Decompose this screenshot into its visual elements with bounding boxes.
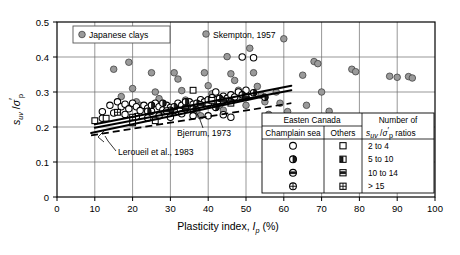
marker-open-circle [239, 54, 245, 60]
annotation-skempton: Skempton, 1957 [213, 30, 276, 40]
marker-japanese-clay [246, 45, 253, 52]
marker-japanese-clay [175, 76, 182, 83]
skempton-swatch [203, 31, 210, 38]
marker-japanese-clay [224, 53, 231, 60]
annotation-leroueil: Leroueil et al., 1983 [118, 147, 194, 157]
legend-box [262, 113, 434, 193]
marker-japanese-clay [205, 82, 212, 89]
y-tick-label: 0.2 [36, 122, 49, 133]
marker-japanese-clay [243, 102, 250, 109]
legend-header-easten-canada: Easten Canada [283, 115, 341, 125]
x-tick-label: 70 [316, 203, 327, 214]
marker-japanese-clay [231, 77, 238, 84]
x-tick-label: 30 [165, 203, 176, 214]
x-tick-label: 40 [203, 203, 214, 214]
marker-japanese-clay [315, 60, 322, 67]
x-tick-label: 60 [279, 203, 290, 214]
marker-japanese-clay [201, 69, 208, 76]
marker-japanese-clay [152, 89, 159, 96]
marker-japanese-clay [171, 69, 178, 76]
y-tick-label: 0.1 [36, 157, 49, 168]
legend-ratio-value: > 15 [368, 181, 385, 191]
marker-open-circle [99, 108, 105, 114]
legend-ratio-value: 10 to 14 [368, 168, 398, 178]
marker-japanese-clay [178, 87, 185, 94]
marker-half-square-fill [341, 157, 343, 162]
marker-half-circle-fill [293, 156, 296, 163]
legend-layer: Easten CanadaChamplain seaOthersNumber o… [262, 113, 434, 193]
marker-japanese-clay [394, 74, 401, 81]
x-tick-label: 90 [392, 203, 403, 214]
y-tick-label: 0.3 [36, 87, 49, 98]
annotation-bjerrum: Bjerrum, 1973 [177, 128, 231, 138]
annotation-japanese-clays: Japanese clays [89, 30, 148, 40]
y-tick-label: 0 [44, 192, 49, 203]
marker-open-circle [107, 102, 113, 108]
x-tick-label: 10 [90, 203, 101, 214]
x-tick-label: 100 [427, 203, 443, 214]
chart-root: 010203040506070809010000.10.20.30.40.5Pl… [0, 0, 460, 255]
leroueil-leader [105, 136, 116, 151]
marker-japanese-clay [148, 69, 155, 76]
marker-open-square [92, 118, 98, 124]
legend-ratio-value: 5 to 10 [368, 154, 394, 164]
marker-open-circle [213, 89, 219, 95]
marker-japanese-clay [409, 75, 416, 82]
marker-japanese-clay [352, 68, 359, 75]
marker-open-circle [122, 111, 128, 117]
marker-half-circle-fill [152, 102, 155, 108]
marker-half-circle-fill [186, 99, 189, 105]
x-tick-label: 0 [54, 203, 59, 214]
marker-japanese-clay [318, 89, 325, 96]
x-tick-label: 80 [354, 203, 365, 214]
marker-band-circle-band [290, 172, 297, 174]
x-axis-title: Plasticity index, Ip (%) [177, 220, 278, 235]
y-tick-label: 0.5 [36, 17, 49, 28]
japanese-clays-swatch [79, 31, 86, 38]
marker-japanese-clay [250, 69, 257, 76]
marker-open-circle [228, 114, 234, 120]
marker-japanese-clay [126, 59, 133, 66]
legend-col-others: Others [331, 128, 356, 138]
marker-japanese-clay [281, 36, 288, 43]
marker-japanese-clay [254, 83, 261, 90]
marker-japanese-clay [303, 102, 310, 109]
marker-japanese-clay [299, 72, 306, 79]
marker-half-circle-fill [163, 100, 166, 106]
marker-japanese-clay [228, 71, 235, 78]
y-tick-label: 0.4 [36, 52, 49, 63]
legend-col-ratio-prefix: Number of [379, 115, 418, 125]
plasticity-index-scatter-chart: 010203040506070809010000.10.20.30.40.5Pl… [0, 0, 460, 255]
marker-band-square-band [341, 172, 346, 174]
legend-col-champlain-sea: Champlain sea [265, 128, 321, 138]
svg-text:suv /σ′p: suv /σ′p [7, 94, 25, 125]
marker-japanese-clay [386, 73, 393, 80]
marker-open-circle [250, 55, 256, 61]
marker-open-circle [290, 142, 297, 149]
marker-japanese-clay [110, 66, 117, 73]
marker-open-square [103, 115, 109, 121]
marker-open-square [340, 143, 346, 149]
x-tick-label: 50 [241, 203, 252, 214]
legend-ratio-value: 2 to 4 [368, 141, 389, 151]
marker-japanese-clay [129, 85, 136, 92]
x-tick-label: 20 [127, 203, 138, 214]
y-axis-title: suv /σ′p [7, 94, 25, 125]
marker-open-square [190, 87, 196, 93]
